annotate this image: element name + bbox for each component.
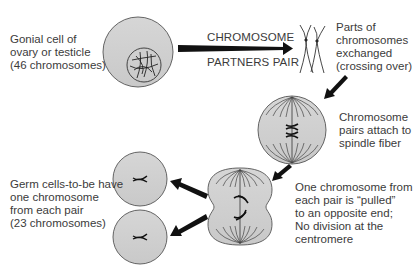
label-line: exchanged [336,47,412,60]
crossing-chromosomes [300,25,325,73]
spindle-cell [258,96,326,164]
edge-label-top: CHROMOSOME [207,31,294,44]
edge-label-bottom: PARTNERS PAIR [207,56,299,69]
label-line: Parts of [336,21,412,34]
arrow-to-germ-cell-top [170,178,208,199]
label-line: centromere [295,233,413,246]
label-line: One chromosome from [295,181,413,194]
spindle-cell-label: Chromosome pairs attach to spindle fiber [339,111,411,150]
label-line: Chromosome [339,111,411,124]
label-line: chromosomes [336,34,412,47]
label-line: (46 chromosomes) [10,59,106,72]
label-line: one chromosome [10,191,123,204]
arrow-to-dividing [272,164,292,181]
arrow-to-spindle [324,75,348,99]
label-line: (crossing over) [336,60,412,73]
label-line: to an opposite end; [295,207,413,220]
germ-cells-label: Germ cells-to-be have one chromosome fro… [10,178,123,230]
label-line: pairs attach to [339,124,411,137]
label-line: Gonial cell of [10,33,106,46]
label-line: spindle fiber [339,137,411,150]
dividing-cell-label: One chromosome from each pair is “pulled… [295,181,413,246]
gonial-cell-label: Gonial cell of ovary or testicle (46 chr… [10,33,106,72]
label-line: from each pair [10,204,123,217]
label-line: each pair is “pulled” [295,194,413,207]
label-line: No division at the [295,220,413,233]
arrow-to-germ-cell-bottom [170,214,208,236]
crossing-over-label: Parts of chromosomes exchanged (crossing… [336,21,412,73]
label-line: Germ cells-to-be have [10,178,123,191]
label-line: (23 chromosomes) [10,217,123,230]
gonial-cell [103,17,173,87]
label-line: ovary or testicle [10,46,106,59]
dividing-cell [208,168,272,245]
